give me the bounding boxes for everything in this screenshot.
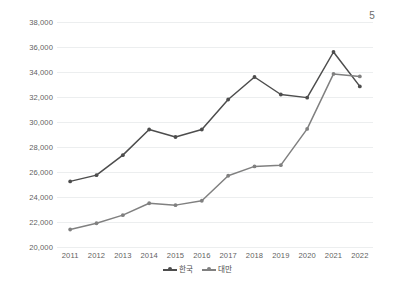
legend-item-대만[interactable]: 대만	[202, 266, 232, 274]
chart-legend: 한국대만	[0, 266, 394, 274]
data-point-marker	[253, 164, 257, 168]
data-point-marker	[95, 173, 99, 177]
series-한국	[68, 50, 361, 183]
series-line	[70, 52, 360, 181]
legend-item-한국[interactable]: 한국	[163, 266, 193, 274]
data-point-marker	[226, 98, 230, 102]
chart-page: 5 38,00036,00034,00032,00030,00028,00026…	[0, 0, 394, 288]
series-line	[70, 74, 360, 230]
data-point-marker	[68, 179, 72, 183]
data-point-marker	[305, 127, 309, 131]
data-point-marker	[121, 213, 125, 217]
data-point-marker	[174, 203, 178, 207]
data-point-marker	[358, 84, 362, 88]
legend-marker-icon	[202, 266, 216, 273]
data-point-marker	[253, 75, 257, 79]
data-point-marker	[121, 153, 125, 157]
data-point-marker	[305, 96, 309, 100]
data-point-marker	[200, 128, 204, 132]
legend-marker-icon	[163, 266, 177, 273]
data-point-marker	[174, 135, 178, 139]
data-point-marker	[279, 163, 283, 167]
legend-label: 한국	[179, 266, 193, 274]
data-point-marker	[279, 93, 283, 97]
data-point-marker	[147, 201, 151, 205]
line-chart: 38,00036,00034,00032,00030,00028,00026,0…	[0, 0, 394, 288]
series-대만	[68, 72, 361, 231]
legend-label: 대만	[218, 266, 232, 274]
data-point-marker	[147, 128, 151, 132]
data-point-marker	[200, 199, 204, 203]
data-point-marker	[332, 50, 336, 54]
data-point-marker	[332, 72, 336, 76]
data-point-marker	[226, 174, 230, 178]
data-point-marker	[358, 74, 362, 78]
data-point-marker	[95, 221, 99, 225]
data-point-marker	[68, 228, 72, 232]
series-layer	[0, 0, 394, 288]
